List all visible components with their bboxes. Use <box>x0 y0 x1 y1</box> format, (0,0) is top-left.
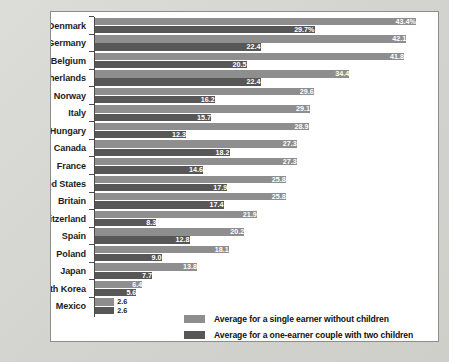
category-label: Switzerland <box>50 214 86 224</box>
axis-tick <box>89 34 94 35</box>
category-label: Japan <box>50 266 86 276</box>
bar-one-earner-couple <box>95 307 114 314</box>
category-label: Canada <box>50 143 86 153</box>
chart-legend: Average for a single earner without chil… <box>184 312 436 342</box>
bar-value-label: 22.4 <box>239 43 262 50</box>
category-label: Norway <box>50 91 86 101</box>
axis-tick <box>89 192 94 193</box>
bar-one-earner-couple <box>95 78 261 85</box>
bar-single-earner <box>95 105 310 112</box>
bar-one-earner-couple <box>95 61 247 68</box>
bar-value-label: 2.6 <box>115 298 127 305</box>
bar-value-label: 20.2 <box>223 228 246 235</box>
bar-value-label: 41.8 <box>383 53 406 60</box>
bar-value-label: 29.6 <box>293 88 316 95</box>
category-label: United States <box>50 179 86 189</box>
bar-value-label: 18.2 <box>208 149 231 156</box>
axis-tick <box>89 279 94 280</box>
axis-tick <box>89 69 94 70</box>
legend-item-single-earner: Average for a single earner without chil… <box>184 312 436 326</box>
legend-swatch-icon-single-earner <box>184 315 205 324</box>
bar-value-label: 15.7 <box>190 114 213 121</box>
bar-value-label: 22.4 <box>239 78 262 85</box>
category-label: Poland <box>50 249 86 259</box>
bar-value-label: 12.8 <box>168 236 191 243</box>
bar-value-label: 8.3 <box>139 219 158 226</box>
category-label: Mexico <box>50 301 86 311</box>
bar-value-label: 25.8 <box>264 176 287 183</box>
bar-single-earner <box>95 53 404 60</box>
bar-one-earner-couple <box>95 43 261 50</box>
bar-value-label: 12.3 <box>165 131 188 138</box>
bar-value-label: 17.4 <box>202 201 225 208</box>
axis-tick <box>89 209 94 210</box>
category-label: Denmark <box>50 21 86 31</box>
bar-single-earner <box>95 176 286 183</box>
axis-tick <box>89 139 94 140</box>
category-label: Italy <box>50 108 86 118</box>
bar-value-label: 28.9 <box>287 123 310 130</box>
axis-tick <box>89 297 94 298</box>
bar-single-earner <box>95 211 257 218</box>
axis-tick <box>89 262 94 263</box>
legend-swatch-icon-one-earner-couple <box>184 331 205 340</box>
category-label: Britain <box>50 196 86 206</box>
axis-tick <box>89 121 94 122</box>
category-label: France <box>50 161 86 171</box>
bar-value-label: 43.4% <box>390 18 418 25</box>
bar-value-label: 5.6 <box>119 289 138 296</box>
bar-value-label: 21.9 <box>236 211 259 218</box>
legend-label-single-earner: Average for a single earner without chil… <box>214 314 389 324</box>
bar-single-earner <box>95 193 286 200</box>
bar-single-earner <box>95 298 114 305</box>
bar-single-earner <box>95 228 244 235</box>
category-label: Netherlands <box>50 73 86 83</box>
axis-tick <box>89 104 94 105</box>
bar-single-earner <box>95 123 309 130</box>
bar-one-earner-couple <box>95 26 315 33</box>
bar-value-label: 16.2 <box>194 96 217 103</box>
legend-item-one-earner-couple: Average for a one-earner couple with two… <box>184 328 436 342</box>
bar-value-label: 18.1 <box>208 246 231 253</box>
axis-tick <box>89 86 94 87</box>
bar-value-label: 17.9 <box>206 184 229 191</box>
axis-tick <box>89 174 94 175</box>
axis-tick <box>89 51 94 52</box>
bar-value-label: 27.3 <box>276 158 299 165</box>
axis-tick <box>89 16 94 17</box>
plot-area: Denmark43.4%29.7%Germany42.122.4Belgium4… <box>51 12 438 341</box>
bar-single-earner <box>95 70 349 77</box>
bar-value-label: 9.0 <box>145 254 164 261</box>
bar-single-earner <box>95 18 416 25</box>
bar-value-label: 25.8 <box>264 193 287 200</box>
category-label: Germany <box>50 38 86 48</box>
legend-label-one-earner-couple: Average for a one-earner couple with two… <box>214 330 413 340</box>
chart-panel: Denmark43.4%29.7%Germany42.122.4Belgium4… <box>50 11 439 342</box>
bar-value-label: 29.7% <box>289 26 317 33</box>
bar-single-earner <box>95 140 297 147</box>
bar-value-label: 29.1 <box>289 105 312 112</box>
axis-tick <box>89 244 94 245</box>
bar-value-label: 27.3 <box>276 140 299 147</box>
category-label: South Korea <box>50 284 86 294</box>
bar-value-label: 13.8 <box>176 263 199 270</box>
category-label: Hungary <box>50 126 86 136</box>
bar-value-label: 42.1 <box>385 35 408 42</box>
bar-value-label: 34.4 <box>328 70 351 77</box>
bar-value-label: 14.6 <box>182 166 205 173</box>
bar-value-label: 2.6 <box>115 307 127 314</box>
category-label: Belgium <box>50 56 86 66</box>
bar-value-label: 20.5 <box>225 61 248 68</box>
bar-value-label: 7.7 <box>135 272 154 279</box>
axis-tick <box>89 156 94 157</box>
axis-tick <box>89 227 94 228</box>
category-label: Spain <box>50 231 86 241</box>
